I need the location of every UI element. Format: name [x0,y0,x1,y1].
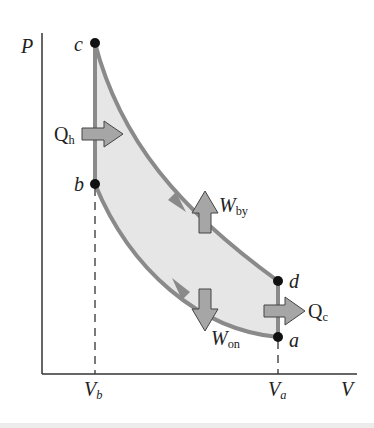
point-label-c: c [74,34,83,54]
heat-out-main: Q [308,300,322,322]
bottom-band [0,423,374,428]
work-by-label: Wby [219,195,248,218]
heat-in-label: Qh [54,124,75,147]
point-label-a: a [289,330,299,350]
tick-label-vb: Vb [84,379,102,402]
heat-out-sub: c [322,310,328,324]
tick-vb-sub: b [96,388,102,402]
work-by-main: W [219,194,236,216]
work-on-main: W [211,327,228,349]
y-axis-label: P [21,36,33,56]
pv-diagram: P V Vb Va c b d a Qh Qc Wby Won [0,0,374,428]
tick-vb-main: V [84,378,96,400]
point-d [273,276,283,286]
work-by-sub: by [236,204,248,218]
tick-va-main: V [268,378,280,400]
point-label-b: b [74,174,84,194]
point-c [90,38,100,48]
point-label-d: d [289,271,299,291]
pv-diagram-canvas [0,0,374,428]
point-b [90,179,100,189]
heat-in-sub: h [68,133,74,147]
work-on-label: Won [211,328,240,351]
point-a [273,332,283,342]
heat-in-main: Q [54,123,68,145]
heat-out-label: Qc [308,301,328,324]
x-axis-label: V [341,379,353,399]
work-on-sub: on [228,337,240,351]
tick-va-sub: a [280,388,286,402]
tick-label-va: Va [268,379,286,402]
